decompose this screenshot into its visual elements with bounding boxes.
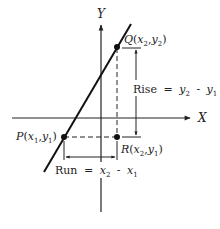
point-p-label: P(x1,y1) [15,130,57,145]
y-axis-label: Y [97,7,106,21]
y-axis: Y [97,7,106,212]
point-r [114,134,120,140]
x-axis-label: X [197,111,207,125]
point-q-label: Q(x2,y2) [124,33,167,48]
point-r-label: R(x2,y1) [120,143,163,158]
point-p [61,134,67,140]
point-q [114,44,120,50]
x-axis: X [12,111,207,125]
slope-diagram: X Y Rise = y2 - y1 Run = x2 - [0,0,220,229]
